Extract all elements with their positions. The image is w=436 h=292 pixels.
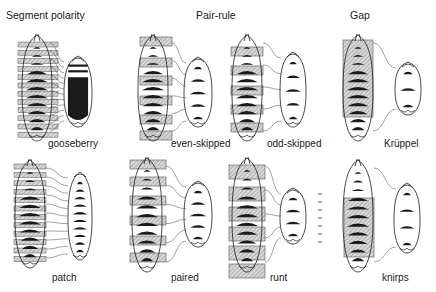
panel-even-skipped [138, 34, 212, 141]
panel-kruppel [343, 34, 421, 141]
panel-odd-skipped [231, 34, 306, 141]
panel-runt [229, 157, 306, 278]
embryo-diagrams [0, 0, 436, 292]
panel-paired [130, 157, 212, 272]
panel-gooseberry [18, 34, 92, 141]
panel-knirps [343, 159, 420, 272]
panel-patch [14, 159, 92, 268]
